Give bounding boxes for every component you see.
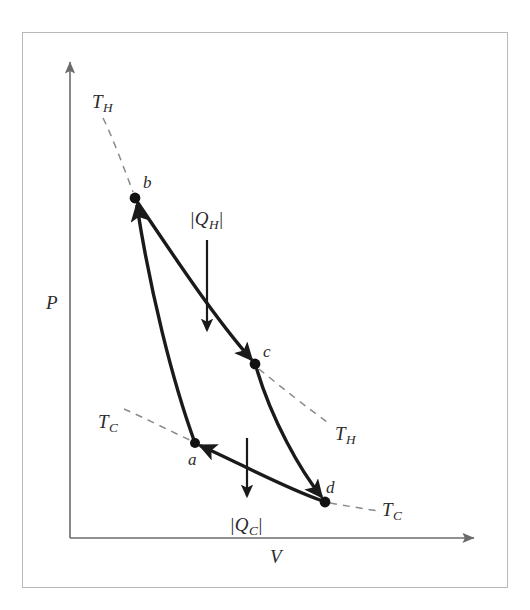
- isotherm-dash-th-lower-right: [259, 369, 330, 424]
- isotherm-label-tc-lower-right-base: T: [382, 499, 393, 520]
- heat-label-qh-close-bar: |: [219, 208, 224, 229]
- cycle-path-group: [137, 203, 321, 500]
- state-label-b: b: [143, 174, 152, 191]
- isotherm-dash-tc-lower-right: [330, 503, 378, 511]
- heat-label-qc: |QC|: [230, 515, 263, 537]
- heat-label-qh: |QH|: [190, 209, 223, 231]
- isotherm-label-tc-lower-left-base: T: [98, 411, 109, 432]
- isotherm-dash-tc-lower-left: [124, 409, 192, 441]
- heat-label-qc-base: Q: [235, 514, 249, 535]
- isotherm-label-tc-lower-right-sub: C: [393, 508, 402, 523]
- heat-label-qh-sub: H: [209, 217, 219, 232]
- isotherm-dash-th-upper: [103, 118, 133, 192]
- isotherm-label-th-lower-right-base: T: [335, 423, 346, 444]
- process-d-to-a: [201, 446, 320, 500]
- isotherm-label-tc-lower-left: TC: [98, 412, 118, 434]
- diagram-canvas: [0, 0, 530, 610]
- axes-group: [70, 62, 474, 538]
- heat-label-qh-base: Q: [195, 208, 209, 229]
- state-label-a: a: [188, 451, 197, 468]
- isotherm-label-th-upper-left: TH: [92, 92, 113, 114]
- pv-diagram-figure: P V a b c d TH TC TH TC |QH| |QC|: [0, 0, 530, 610]
- y-axis-label: P: [46, 293, 58, 312]
- state-point-d: [320, 497, 331, 508]
- state-point-c: [250, 359, 261, 370]
- state-point-a: [190, 438, 200, 448]
- x-axis-label: V: [270, 547, 282, 566]
- isotherm-label-tc-lower-left-sub: C: [109, 420, 118, 435]
- isotherm-label-th-lower-right-sub: H: [346, 432, 356, 447]
- isotherm-label-th-lower-right: TH: [335, 424, 356, 446]
- state-point-b: [130, 193, 141, 204]
- isotherm-label-th-upper-left-sub: H: [103, 100, 113, 115]
- isotherm-label-tc-lower-right: TC: [382, 500, 402, 522]
- state-label-d: d: [326, 479, 335, 496]
- isotherm-label-th-upper-left-base: T: [92, 91, 103, 112]
- state-label-c: c: [263, 343, 271, 360]
- heat-label-qc-sub: C: [249, 523, 258, 538]
- heat-label-qc-close-bar: |: [258, 514, 263, 535]
